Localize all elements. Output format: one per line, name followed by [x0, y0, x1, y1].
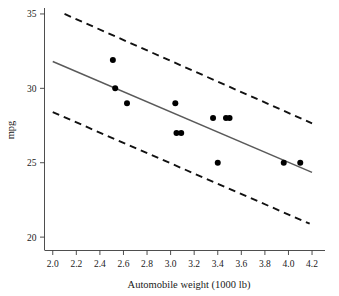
data-point: [215, 160, 221, 166]
x-tick-label: 3.6: [235, 259, 247, 269]
y-axis-title: mpg: [5, 120, 16, 139]
data-point: [178, 130, 184, 136]
data-point: [210, 115, 216, 121]
x-tick-label: 3.2: [188, 259, 200, 269]
y-axis-ticks: 20253035: [27, 9, 45, 242]
x-tick-label: 2.4: [94, 259, 106, 269]
fitted-regression-line-line: [53, 62, 312, 173]
x-tick-label: 4.2: [306, 259, 318, 269]
lower-prediction-band-line: [53, 112, 310, 224]
prediction-band-group: [53, 14, 312, 224]
x-tick-label: 3.4: [212, 259, 224, 269]
data-point: [227, 115, 233, 121]
data-point: [110, 57, 116, 63]
x-tick-label: 3.0: [165, 259, 177, 269]
data-point: [281, 160, 287, 166]
data-point: [172, 100, 178, 106]
y-tick-label: 30: [27, 84, 37, 94]
x-axis-ticks: 2.02.22.42.62.83.03.23.43.63.84.04.2: [47, 251, 318, 269]
y-tick-label: 35: [27, 9, 37, 19]
data-points-group: [110, 57, 303, 166]
x-tick-label: 3.8: [259, 259, 271, 269]
y-tick-label: 20: [27, 233, 37, 243]
x-tick-label: 2.2: [70, 259, 82, 269]
x-axis-title: Automobile weight (1000 lb): [128, 279, 251, 291]
regression-line-group: [53, 62, 312, 173]
x-tick-label: 2.8: [141, 259, 153, 269]
y-tick-label: 25: [27, 158, 37, 168]
data-point: [112, 85, 118, 91]
x-tick-label: 2.6: [118, 259, 130, 269]
upper-prediction-band-line: [65, 14, 313, 123]
scatter-plot-svg: 20253035 2.02.22.42.62.83.03.23.43.63.84…: [0, 0, 339, 296]
x-tick-label: 2.0: [47, 259, 59, 269]
data-point: [297, 160, 303, 166]
x-tick-label: 4.0: [283, 259, 295, 269]
chart-figure: 20253035 2.02.22.42.62.83.03.23.43.63.84…: [0, 0, 339, 296]
data-point: [124, 100, 130, 106]
